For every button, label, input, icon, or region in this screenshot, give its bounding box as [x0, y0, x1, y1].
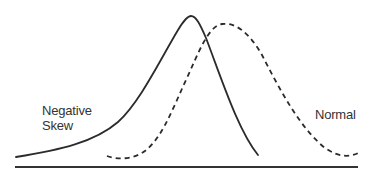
skew-diagram: Negative Skew Normal	[0, 0, 376, 175]
normal-label-text: Normal	[315, 107, 356, 122]
negative-skew-label-line1: Negative	[42, 103, 92, 118]
negative-skew-curve	[16, 16, 258, 157]
normal-curve	[107, 24, 360, 159]
negative-skew-label-line2: Skew	[42, 118, 92, 133]
negative-skew-label: Negative Skew	[42, 103, 92, 133]
diagram-canvas	[0, 0, 376, 175]
normal-label: Normal	[315, 107, 356, 122]
